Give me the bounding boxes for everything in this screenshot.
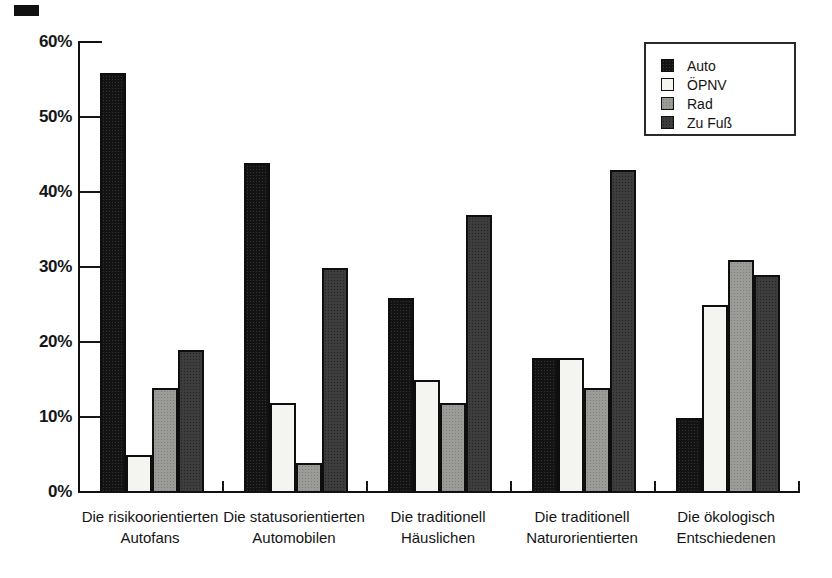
y-tick-mark [80,191,100,193]
bar-auto-2 [388,298,414,493]
y-tick-mark [80,266,100,268]
y-tick-label: 40% [22,182,72,202]
bar-zu-fuss-1 [322,268,348,493]
legend-label-rad: Rad [687,97,713,111]
bar-oepnv-4 [702,305,728,493]
bar-zu-fuss-2 [466,215,492,493]
bar-oepnv-1 [270,403,296,493]
bar-oepnv-3 [558,358,584,493]
category-label-2: Die traditionell Häuslichen [358,506,518,548]
legend-item-auto: Auto [661,56,794,75]
y-tick-label: 0% [22,482,72,502]
bar-zu-fuss-3 [610,170,636,493]
bar-chart: 60%50%40%30%20%10%0% Die risikoorientier… [0,0,832,578]
bar-rad-3 [584,388,610,493]
bar-rad-1 [296,463,322,493]
legend-label-zu-fuss: Zu Fuß [687,116,732,130]
legend-label-auto: Auto [687,59,716,73]
y-tick-label: 60% [22,32,72,52]
x-tick-mark [222,481,224,492]
legend-item-oepnv: ÖPNV [661,75,794,94]
y-axis-top-tick [78,41,102,43]
x-tick-mark [366,481,368,492]
bar-rad-0 [152,388,178,493]
bar-zu-fuss-0 [178,350,204,493]
legend-swatch-zu-fuss [661,116,674,129]
category-label-4: Die ökologisch Entschiedenen [646,506,806,548]
y-tick-mark [80,341,100,343]
category-label-0: Die risikoorientierten Autofans [70,506,230,548]
legend-label-oepnv: ÖPNV [687,78,727,92]
y-tick-label: 50% [22,107,72,127]
x-tick-mark [798,481,800,492]
legend-item-rad: Rad [661,94,794,113]
y-tick-label: 10% [22,407,72,427]
bar-rad-4 [728,260,754,493]
bar-auto-3 [532,358,558,493]
legend-swatch-oepnv [661,78,674,91]
legend-swatch-rad [661,97,674,110]
legend: AutoÖPNVRadZu Fuß [644,42,796,136]
bar-oepnv-0 [126,455,152,493]
y-tick-label: 20% [22,332,72,352]
category-label-1: Die statusorientierten Automobilen [214,506,374,548]
bar-auto-4 [676,418,702,493]
legend-item-zu-fuss: Zu Fuß [661,113,794,132]
legend-swatch-auto [661,59,674,72]
category-label-3: Die traditionell Naturorientierten [502,506,662,548]
y-tick-label: 30% [22,257,72,277]
bar-rad-2 [440,403,466,493]
bar-auto-1 [244,163,270,493]
scan-artifact-mark [14,5,39,16]
x-axis-line [78,491,800,493]
x-tick-mark [654,481,656,492]
bar-zu-fuss-4 [754,275,780,493]
x-tick-mark [510,481,512,492]
y-tick-mark [80,116,100,118]
bar-auto-0 [100,73,126,493]
bar-oepnv-2 [414,380,440,493]
legend-items: AutoÖPNVRadZu Fuß [661,56,794,132]
y-tick-mark [80,416,100,418]
